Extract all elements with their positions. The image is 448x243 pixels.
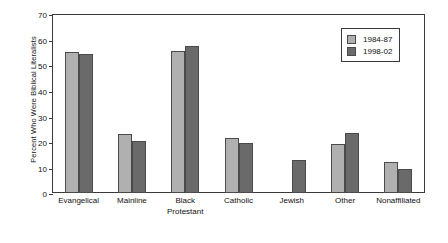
bar-group xyxy=(225,14,253,193)
y-tick: 70 xyxy=(38,6,53,24)
y-tick-label: 30 xyxy=(38,114,47,123)
bar xyxy=(398,169,412,193)
y-axis-title: Percent Who Were Biblical Literalists xyxy=(29,5,38,195)
bar xyxy=(118,134,132,193)
x-axis-label: Nonaffiliated xyxy=(356,196,440,207)
bar xyxy=(132,141,146,193)
bar xyxy=(384,162,398,193)
legend-swatch-1998-02 xyxy=(347,47,356,56)
y-tick: 60 xyxy=(38,32,53,50)
y-tick: 20 xyxy=(38,134,53,152)
bar xyxy=(79,54,93,193)
bar xyxy=(292,160,306,193)
y-tick-label: 10 xyxy=(38,165,47,174)
bar-chart: Percent Who Were Biblical Literalists 01… xyxy=(0,0,448,243)
y-tick: 30 xyxy=(38,108,53,126)
bar xyxy=(331,144,345,193)
legend-label-1998-02: 1998-02 xyxy=(363,47,392,56)
bar xyxy=(65,52,79,193)
y-tick: 40 xyxy=(38,83,53,101)
bar xyxy=(185,46,199,193)
x-axis-labels: EvangelicalMainlineBlackProtestantCathol… xyxy=(52,196,425,240)
y-tick-label: 70 xyxy=(38,11,47,20)
y-tick-label: 60 xyxy=(38,37,47,46)
bar xyxy=(239,143,253,193)
y-tick-label: 50 xyxy=(38,62,47,71)
bar xyxy=(225,138,239,193)
y-tick-label: 40 xyxy=(38,88,47,97)
y-tick: 10 xyxy=(38,159,53,177)
bar-group xyxy=(118,14,146,193)
bar-group xyxy=(65,14,93,193)
legend-item: 1984-87 xyxy=(347,33,392,45)
bar-group xyxy=(171,14,199,193)
legend-label-1984-87: 1984-87 xyxy=(363,35,392,44)
legend-item: 1998-02 xyxy=(347,45,392,57)
y-tick-label: 20 xyxy=(38,139,47,148)
chart-legend: 1984-87 1998-02 xyxy=(341,28,400,62)
bar-group xyxy=(278,14,306,193)
bar xyxy=(345,133,359,193)
bar xyxy=(171,51,185,193)
legend-swatch-1984-87 xyxy=(347,35,356,44)
y-tick: 50 xyxy=(38,57,53,75)
